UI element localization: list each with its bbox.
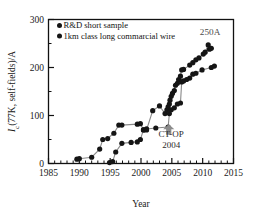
y-tick-label: 0 [39,159,44,169]
data-point [203,50,208,55]
data-point [178,74,183,79]
annotation-250a: 250A [200,27,221,37]
data-point [153,125,158,130]
y-axis-title: Ic(77K, self-fields)/A [7,51,21,133]
chart-canvas: 19851990199520002005201020150100200300Ye… [0,0,255,213]
x-axis-title: Year [132,199,150,209]
y-axis-title-text: Ic(77K, self-fields)/A [7,51,21,133]
y-tick-label: 300 [30,15,45,25]
legend-marker-1 [57,33,62,38]
annotation-year-2004: 2004 [162,140,181,150]
data-point [172,88,177,93]
y-tick-label: 100 [30,111,45,121]
data-point [119,141,124,146]
data-point [157,103,162,108]
data-point [209,46,214,51]
x-tick-label: 2010 [193,168,212,178]
legend-label-1: 1km class long commarcial wire [64,31,176,41]
data-point [89,155,94,160]
data-point [113,149,118,154]
legend-marker-0 [57,23,62,28]
data-point [138,137,143,142]
x-tick-label: 2005 [162,168,181,178]
legend-label-0: R&D short sample [64,20,129,30]
data-point [178,100,183,105]
data-point [150,108,155,113]
x-tick-label: 1995 [101,168,120,178]
data-point [199,67,204,72]
annotation-ct-op: CT-OP [159,129,184,139]
data-point [97,147,102,152]
data-point [193,71,198,76]
x-tick-label: 2015 [224,168,243,178]
data-point [196,55,201,60]
data-point [138,121,143,126]
data-point [212,63,217,68]
data-point [100,137,105,142]
x-tick-label: 1990 [70,168,89,178]
data-point [144,126,149,131]
figure-container: 19851990199520002005201020150100200300Ye… [0,0,255,213]
data-point [129,140,134,145]
data-point [105,136,110,141]
data-point [111,131,116,136]
data-point [77,156,82,161]
x-tick-label: 1985 [39,168,58,178]
data-point [181,67,186,72]
y-tick-label: 200 [30,63,45,73]
data-point [110,159,115,164]
data-point [119,123,124,128]
x-tick-label: 2000 [132,168,151,178]
